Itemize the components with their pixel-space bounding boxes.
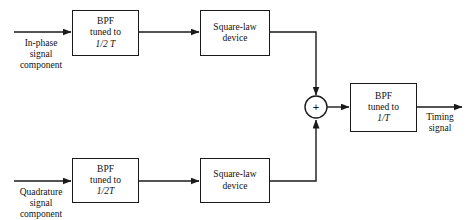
sqlaw-quadrature-line2: device xyxy=(223,181,248,192)
bpf-quadrature-line3: 1/2T xyxy=(97,186,114,197)
input-quadrature-line2: signal xyxy=(5,198,77,209)
bpf-output-line3: 1/T xyxy=(377,113,390,124)
wire-sqlaw1-to-summer xyxy=(268,32,316,95)
label-input-inphase: In-phase signal component xyxy=(8,38,74,71)
bpf-output-line1: BPF xyxy=(375,91,392,102)
bpf-inphase-line1: BPF xyxy=(97,16,114,27)
label-input-quadrature: Quadrature signal component xyxy=(5,187,77,220)
block-square-law-quadrature[interactable]: Square-law device xyxy=(200,158,270,203)
block-diagram: + BPF tuned to 1/2 T Square-law device B… xyxy=(0,0,469,220)
input-inphase-line2: signal xyxy=(8,49,74,60)
block-bpf-quadrature[interactable]: BPF tuned to 1/2T xyxy=(72,158,139,203)
block-bpf-inphase[interactable]: BPF tuned to 1/2 T xyxy=(72,10,139,56)
bpf-quadrature-line1: BPF xyxy=(97,164,114,175)
block-square-law-inphase[interactable]: Square-law device xyxy=(200,10,270,56)
input-quadrature-line1: Quadrature xyxy=(5,187,77,198)
output-line1: Timing xyxy=(414,112,466,123)
bpf-output-line2: tuned to xyxy=(368,102,399,113)
output-line2: signal xyxy=(414,123,466,134)
sqlaw-inphase-line1: Square-law xyxy=(213,22,256,33)
input-inphase-line1: In-phase xyxy=(8,38,74,49)
sqlaw-inphase-line2: device xyxy=(223,33,248,44)
bpf-inphase-line2: tuned to xyxy=(90,27,121,38)
sqlaw-quadrature-line1: Square-law xyxy=(213,169,256,180)
input-quadrature-line3: component xyxy=(5,209,77,220)
input-inphase-line3: component xyxy=(8,60,74,71)
bpf-quadrature-line2: tuned to xyxy=(90,175,121,186)
wire-sqlaw2-to-summer xyxy=(268,120,316,181)
plus-symbol: + xyxy=(313,101,319,113)
summing-junction-plus: + xyxy=(306,97,326,117)
bpf-inphase-line3: 1/2 T xyxy=(96,39,116,50)
block-bpf-output[interactable]: BPF tuned to 1/T xyxy=(350,83,417,132)
label-output-timing-signal: Timing signal xyxy=(414,112,466,134)
